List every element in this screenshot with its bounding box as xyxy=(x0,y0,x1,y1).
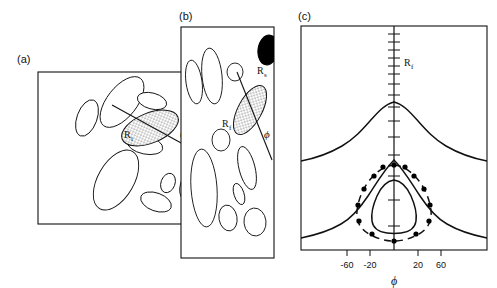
data-point xyxy=(402,164,407,169)
phi-axis-title: ϕ xyxy=(391,274,397,288)
phi-axis: -60 -20 20 60 ϕ xyxy=(340,250,446,288)
panel-b-letter: (b) xyxy=(179,10,192,22)
panel-b-Rs-label: R xyxy=(257,65,264,76)
data-point xyxy=(391,162,396,167)
three-panel-figure: (a) R i xyxy=(0,0,497,288)
data-point xyxy=(427,202,432,207)
phi-tick-label: 60 xyxy=(436,260,446,270)
data-point xyxy=(369,231,374,236)
panel-a-R-label: R xyxy=(124,129,131,140)
data-point xyxy=(413,231,418,236)
data-point xyxy=(380,164,385,169)
panel-a-letter: (a) xyxy=(17,53,30,65)
panel-c-Rf-label: R xyxy=(404,57,411,68)
panel-b-Rf-label: R xyxy=(222,118,229,129)
data-point xyxy=(421,186,426,191)
data-point xyxy=(361,186,366,191)
data-point xyxy=(426,218,431,223)
data-point xyxy=(355,202,360,207)
data-point xyxy=(391,238,396,243)
phi-tick-label: -20 xyxy=(363,260,376,270)
panel-c: (c) xyxy=(298,10,487,288)
data-point xyxy=(411,173,416,178)
phi-tick-label: -60 xyxy=(340,260,353,270)
data-point xyxy=(356,218,361,223)
panel-b-Rs-subscript: s xyxy=(264,71,267,79)
marker-ellipse xyxy=(212,129,230,151)
panel-a-R-subscript: i xyxy=(131,135,133,143)
panel-c-letter: (c) xyxy=(298,10,311,22)
data-point xyxy=(371,173,376,178)
panel-b: (b) R s xyxy=(179,10,280,258)
figure-root: (a) R i xyxy=(0,0,497,288)
phi-tick-label: 20 xyxy=(413,260,423,270)
panel-b-phi-label: ϕ xyxy=(264,128,270,140)
marker-ellipse xyxy=(227,63,243,81)
